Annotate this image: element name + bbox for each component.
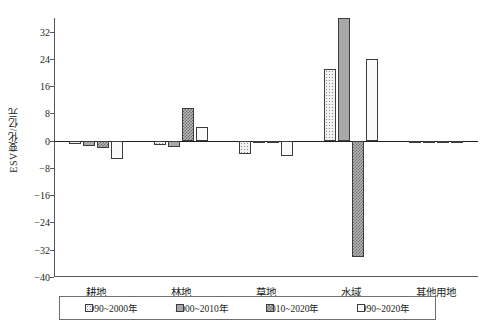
legend-swatch-icon bbox=[85, 304, 93, 312]
y-tick-mark bbox=[50, 59, 54, 60]
bar[interactable] bbox=[338, 18, 350, 141]
bar[interactable] bbox=[409, 141, 421, 143]
y-tick-mark bbox=[50, 222, 54, 223]
y-tick-mark bbox=[50, 195, 54, 196]
legend-item[interactable]: 1990~2020年 bbox=[357, 301, 410, 315]
y-tick-mark bbox=[50, 277, 54, 278]
y-tick-label: −40 bbox=[34, 272, 50, 283]
y-axis-label-text: ESV变化/亿元 bbox=[6, 107, 21, 173]
bar[interactable] bbox=[366, 59, 378, 141]
y-tick-label: 16 bbox=[40, 81, 50, 92]
bar[interactable] bbox=[267, 141, 279, 144]
legend-item[interactable]: 1990~2000年 bbox=[85, 301, 138, 315]
bar[interactable] bbox=[97, 141, 109, 148]
y-tick-label: −16 bbox=[34, 190, 50, 201]
bar[interactable] bbox=[154, 141, 166, 146]
bar[interactable] bbox=[253, 141, 265, 143]
bar-group bbox=[69, 18, 123, 277]
bar[interactable] bbox=[423, 141, 435, 143]
bar-group bbox=[324, 18, 378, 277]
bar[interactable] bbox=[239, 141, 251, 154]
y-tick-mark bbox=[50, 168, 54, 169]
y-tick-label: 8 bbox=[45, 108, 50, 119]
chart-legend: 1990~2000年2000~2010年2010~2020年1990~2020年 bbox=[59, 296, 436, 320]
y-tick-label: 24 bbox=[40, 53, 50, 64]
legend-item[interactable]: 2000~2010年 bbox=[176, 301, 229, 315]
bar[interactable] bbox=[182, 108, 194, 141]
legend-swatch-icon bbox=[176, 304, 184, 312]
bar[interactable] bbox=[111, 141, 123, 159]
bar[interactable] bbox=[69, 141, 81, 144]
bar[interactable] bbox=[324, 69, 336, 141]
y-tick-label: −32 bbox=[34, 244, 50, 255]
bar[interactable] bbox=[451, 141, 463, 143]
legend-swatch-icon bbox=[357, 304, 365, 312]
bar-group bbox=[239, 18, 293, 277]
bar[interactable] bbox=[437, 141, 449, 143]
y-tick-label: −8 bbox=[39, 162, 50, 173]
y-tick-label: 0 bbox=[45, 135, 50, 146]
y-tick-label: 32 bbox=[40, 26, 50, 37]
bar-group bbox=[154, 18, 208, 277]
y-tick-mark bbox=[50, 32, 54, 33]
bar[interactable] bbox=[83, 141, 95, 146]
plot-area: 32241680−8−16−24−32−40 耕地林地草地水域其他用地 bbox=[54, 18, 478, 277]
esv-change-bar-chart: ESV变化/亿元 32241680−8−16−24−32−40 耕地林地草地水域… bbox=[0, 0, 492, 330]
bar[interactable] bbox=[281, 141, 293, 157]
legend-swatch-icon bbox=[266, 304, 274, 312]
y-tick-mark bbox=[50, 113, 54, 114]
legend-item[interactable]: 2010~2020年 bbox=[266, 301, 319, 315]
bar[interactable] bbox=[168, 141, 180, 147]
y-axis-line bbox=[54, 18, 55, 277]
bar[interactable] bbox=[196, 127, 208, 141]
y-tick-label: −24 bbox=[34, 217, 50, 228]
bar-group bbox=[409, 18, 463, 277]
y-axis-label: ESV变化/亿元 bbox=[2, 0, 24, 280]
bar[interactable] bbox=[352, 141, 364, 257]
y-tick-mark bbox=[50, 250, 54, 251]
y-tick-mark bbox=[50, 86, 54, 87]
